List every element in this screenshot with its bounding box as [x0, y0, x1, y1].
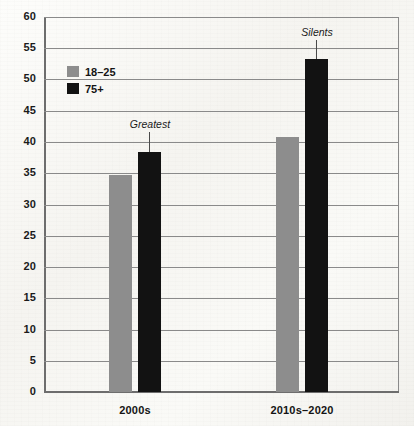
bars-layer: [0, 0, 414, 426]
bar-2000s-75plus[interactable]: [138, 152, 161, 392]
legend-item-75plus[interactable]: 75+: [67, 81, 116, 96]
annotation-greatest-label: Greatest: [125, 118, 175, 130]
bar-2010s-2020-75plus[interactable]: [305, 59, 328, 392]
legend-item-18-25[interactable]: 18–25: [67, 64, 116, 79]
legend-swatch-75plus: [67, 83, 79, 94]
annotation-silents-leader-line: [316, 40, 317, 59]
legend-swatch-18-25: [67, 66, 79, 77]
annotation-greatest-leader-line: [149, 132, 150, 152]
bar-2000s-18-25[interactable]: [109, 175, 132, 392]
chart-legend: 18–25 75+: [67, 64, 116, 98]
legend-label-18-25: 18–25: [85, 66, 116, 78]
x-tick-label-2010s-2020: 2010s–2020: [258, 404, 346, 416]
annotation-silents-label: Silents: [292, 26, 342, 38]
bar-chart: 60 55 50 45 40 35 30 25 20 15 10 5 0 Gre…: [0, 0, 414, 426]
x-tick-label-2000s: 2000s: [95, 404, 175, 416]
bar-2010s-2020-18-25[interactable]: [276, 137, 299, 392]
legend-label-75plus: 75+: [85, 83, 104, 95]
